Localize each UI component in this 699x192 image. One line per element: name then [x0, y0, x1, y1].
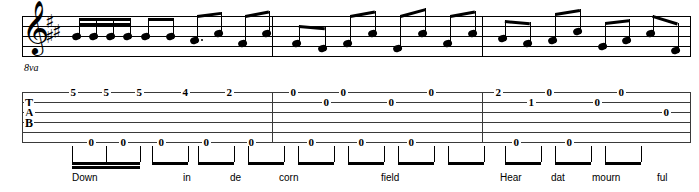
- lyric-syllable: Hear: [500, 172, 522, 183]
- ottava-8vb-label: 8va: [24, 62, 38, 73]
- notehead: [572, 27, 583, 36]
- tab-barline: [482, 92, 483, 143]
- notehead: [497, 34, 508, 43]
- tab-fret-number: 2: [225, 87, 234, 98]
- barline: [22, 16, 23, 57]
- lyric-syllable: field: [381, 172, 399, 183]
- tab-fret-number: 0: [157, 137, 166, 148]
- staff-line-4: [22, 46, 690, 47]
- rhythm-beam: [605, 162, 641, 165]
- notehead: [122, 32, 133, 41]
- rhythm-stem: [484, 146, 485, 162]
- rhythm-stem: [298, 146, 299, 162]
- tab-fret-number: 0: [119, 137, 128, 148]
- rhythm-stem: [106, 146, 107, 162]
- rhythm-stem: [248, 146, 249, 162]
- tab-barline: [690, 92, 691, 143]
- rhythm-beam: [398, 162, 434, 165]
- rhythm-beam: [72, 166, 140, 169]
- rhythm-stem: [198, 146, 199, 162]
- rhythm-stem: [188, 146, 189, 162]
- rhythm-beam: [505, 162, 541, 165]
- lyric-syllable: mourn: [592, 172, 620, 183]
- rhythm-stem: [448, 146, 449, 162]
- tab-fret-number: 0: [357, 137, 366, 148]
- tab-line-2: [22, 102, 690, 103]
- barline: [482, 16, 483, 57]
- notehead: [392, 44, 403, 53]
- tab-fret-number: 0: [307, 137, 316, 148]
- notehead: [165, 32, 176, 41]
- notehead: [105, 32, 116, 41]
- tab-fret-number: 5: [102, 87, 111, 98]
- tab-barline: [22, 92, 23, 143]
- rhythm-stem: [140, 146, 141, 162]
- rhythm-stem: [398, 146, 399, 162]
- rhythm-beam: [152, 162, 188, 165]
- beam: [79, 18, 130, 21]
- notehead: [547, 36, 558, 45]
- beam: [79, 23, 130, 26]
- lyric-syllable: de: [230, 172, 241, 183]
- notehead: [140, 32, 151, 41]
- tab-fret-number: 0: [662, 107, 671, 118]
- tab-fret-number: 5: [69, 87, 78, 98]
- tab-fret-number: 0: [202, 137, 211, 148]
- rhythm-stem: [384, 146, 385, 162]
- lyric-syllable: in: [183, 172, 191, 183]
- tab-clef-letter-b: B: [24, 116, 34, 131]
- tab-fret-number: 4: [181, 87, 190, 98]
- tab-line-5: [22, 132, 690, 133]
- rhythm-beam: [448, 162, 484, 165]
- staff-line-5: [22, 56, 690, 57]
- rhythm-beam: [72, 162, 140, 165]
- music-score-sheet: 𝄞 8va ♯ ♯ ♯ T A B 5554200000210000000000…: [0, 0, 699, 192]
- tab-fret-number: 5: [135, 87, 144, 98]
- tab-fret-number: 0: [289, 87, 298, 98]
- tab-fret-number: 0: [339, 87, 348, 98]
- beam: [605, 19, 629, 25]
- rhythm-beam: [348, 162, 384, 165]
- rhythm-stem: [591, 146, 592, 162]
- rhythm-stem: [605, 146, 606, 162]
- tab-fret-number: 2: [494, 87, 503, 98]
- tab-fret-number: 0: [387, 97, 396, 108]
- tab-fret-number: 0: [427, 87, 436, 98]
- barline: [272, 16, 273, 57]
- rhythm-stem: [641, 146, 642, 162]
- tab-line-3: [22, 112, 690, 113]
- rhythm-stem: [334, 146, 335, 162]
- rhythm-stem: [72, 146, 73, 162]
- notehead: [317, 44, 328, 53]
- lyric-syllable: corn: [279, 172, 298, 183]
- tab-fret-number: 1: [527, 97, 536, 108]
- tab-fret-number: 0: [322, 97, 331, 108]
- notehead: [621, 36, 632, 45]
- tab-fret-number: 0: [512, 137, 521, 148]
- notehead: [71, 32, 82, 41]
- rhythm-stem: [152, 146, 153, 162]
- tab-barline: [272, 92, 273, 143]
- tab-fret-number: 0: [617, 87, 626, 98]
- rhythm-stem: [348, 146, 349, 162]
- barline: [690, 16, 691, 57]
- beam: [197, 12, 221, 18]
- rhythm-beam: [198, 162, 234, 165]
- rhythm-stem: [541, 146, 542, 162]
- notehead: [670, 46, 681, 55]
- rhythm-stem: [505, 146, 506, 162]
- rhythm-stem: [434, 146, 435, 162]
- tab-line-4: [22, 122, 690, 123]
- key-sharp-icon: ♯: [45, 27, 54, 46]
- rhythm-beam: [298, 162, 334, 165]
- augmentation-dot-icon: [201, 39, 203, 41]
- rhythm-stem: [234, 146, 235, 162]
- tab-fret-number: 0: [545, 87, 554, 98]
- notehead: [88, 32, 99, 41]
- rhythm-stem: [555, 146, 556, 162]
- tab-fret-number: 0: [565, 137, 574, 148]
- notehead: [189, 36, 200, 45]
- tab-fret-number: 0: [593, 97, 602, 108]
- rhythm-beam: [555, 162, 591, 165]
- rhythm-beam: [248, 162, 284, 165]
